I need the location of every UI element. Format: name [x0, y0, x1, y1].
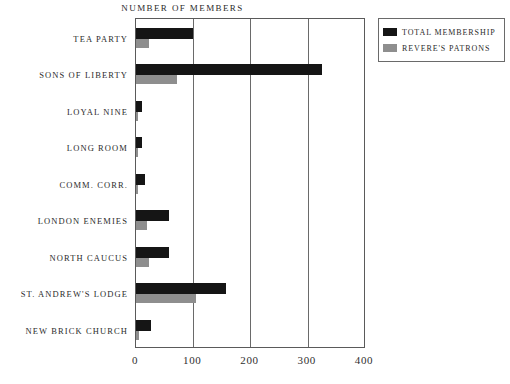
legend-label-total-membership: TOTAL MEMBERSHIP: [402, 28, 496, 37]
category-label-long-room: LONG ROOM: [0, 143, 128, 153]
bar-reveres-patrons: [136, 75, 177, 84]
chart-legend: TOTAL MEMBERSHIP REVERE'S PATRONS: [378, 18, 505, 62]
bar-group: [136, 92, 365, 128]
chart-title: NUMBER OF MEMBERS: [0, 3, 365, 13]
legend-swatch-black-icon: [383, 28, 397, 36]
bar-group: [136, 19, 365, 55]
category-label-new-brick-church: NEW BRICK CHURCH: [0, 326, 128, 336]
bar-total-membership: [136, 101, 142, 112]
bar-total-membership: [136, 283, 226, 294]
bar-total-membership: [136, 174, 145, 185]
legend-swatch-gray-icon: [383, 44, 397, 52]
bar-total-membership: [136, 137, 142, 148]
x-tick-label-400: 400: [355, 354, 373, 366]
bar-total-membership: [136, 320, 151, 331]
x-tick-label-100: 100: [183, 354, 201, 366]
bar-group: [136, 238, 365, 274]
bar-total-membership: [136, 210, 169, 221]
bar-total-membership: [136, 64, 322, 75]
value-axis-labels: 0100200300400: [0, 354, 510, 374]
bar-total-membership: [136, 247, 169, 258]
category-label-loyal-nine: LOYAL NINE: [0, 107, 128, 117]
category-label-north-caucus: NORTH CAUCUS: [0, 253, 128, 263]
legend-item-reveres-patrons: REVERE'S PATRONS: [383, 41, 499, 55]
bar-reveres-patrons: [136, 221, 147, 230]
category-axis-labels: TEA PARTYSONS OF LIBERTYLOYAL NINELONG R…: [0, 18, 128, 348]
x-tick-label-0: 0: [132, 354, 138, 366]
bar-group: [136, 311, 365, 347]
bar-reveres-patrons: [136, 112, 138, 121]
x-tick-label-200: 200: [240, 354, 258, 366]
bar-reveres-patrons: [136, 258, 149, 267]
bar-group: [136, 128, 365, 164]
bar-reveres-patrons: [136, 39, 149, 48]
legend-item-total-membership: TOTAL MEMBERSHIP: [383, 25, 499, 39]
category-label-tea-party: TEA PARTY: [0, 34, 128, 44]
bars-layer: [136, 19, 365, 347]
category-label-comm-corr: COMM. CORR.: [0, 180, 128, 190]
category-label-st-andrew-s-lodge: ST. ANDREW'S LODGE: [0, 289, 128, 299]
bar-total-membership: [136, 28, 193, 39]
category-label-sons-of-liberty: SONS OF LIBERTY: [0, 70, 128, 80]
bar-group: [136, 55, 365, 91]
bar-reveres-patrons: [136, 331, 139, 340]
bar-group: [136, 201, 365, 237]
bar-group: [136, 274, 365, 310]
bar-reveres-patrons: [136, 148, 138, 157]
bar-reveres-patrons: [136, 294, 196, 303]
legend-label-reveres-patrons: REVERE'S PATRONS: [402, 44, 490, 53]
bar-group: [136, 165, 365, 201]
x-tick-label-300: 300: [298, 354, 316, 366]
category-label-london-enemies: LONDON ENEMIES: [0, 216, 128, 226]
bar-reveres-patrons: [136, 185, 138, 194]
